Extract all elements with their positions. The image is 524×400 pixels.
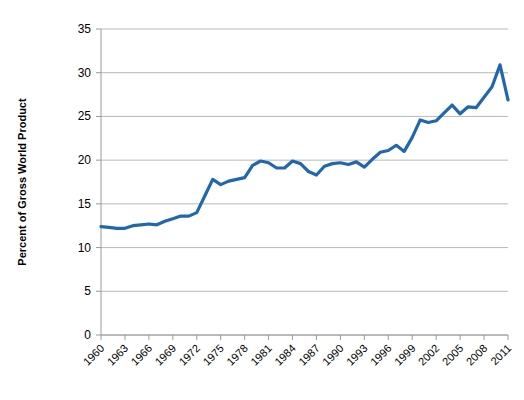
y-tick-label: 0 (84, 328, 91, 342)
gridlines (101, 29, 508, 335)
x-tick-label: 1975 (200, 342, 226, 368)
chart-container: 05101520253035 1960196319661969197219751… (0, 0, 524, 400)
x-tick-label: 1969 (152, 342, 178, 368)
y-axis-tick-labels: 05101520253035 (78, 22, 92, 342)
y-tick-label: 35 (78, 22, 92, 36)
x-tick-label: 1990 (320, 342, 346, 368)
y-tick-label: 20 (78, 153, 92, 167)
x-tick-label: 1966 (128, 342, 154, 368)
x-tick-label: 1960 (81, 342, 107, 368)
y-tick-label: 5 (84, 284, 91, 298)
x-tick-label: 1999 (392, 342, 418, 368)
x-tick-label: 1981 (248, 342, 274, 368)
x-tick-label: 1987 (296, 342, 322, 368)
x-tick-label: 2002 (416, 342, 442, 368)
y-tick-label: 30 (78, 66, 92, 80)
x-tick-label: 2005 (440, 342, 466, 368)
x-tick-label: 2008 (464, 342, 490, 368)
x-tick-label: 1972 (176, 342, 202, 368)
x-axis-tick-labels: 1960196319661969197219751978198119841987… (81, 342, 514, 368)
x-tick-label: 2011 (488, 342, 513, 367)
line-chart: 05101520253035 1960196319661969197219751… (0, 0, 524, 400)
y-axis-title: Percent of Gross World Product (16, 98, 28, 266)
x-tick-label: 1984 (272, 342, 298, 368)
y-tick-label: 25 (78, 109, 92, 123)
x-tick-label: 1996 (368, 342, 394, 368)
x-tick-label: 1963 (105, 342, 131, 368)
x-tick-label: 1993 (344, 342, 370, 368)
axis-lines (96, 29, 508, 340)
y-tick-label: 15 (78, 197, 92, 211)
y-tick-label: 10 (78, 241, 92, 255)
x-tick-label: 1978 (224, 342, 250, 368)
